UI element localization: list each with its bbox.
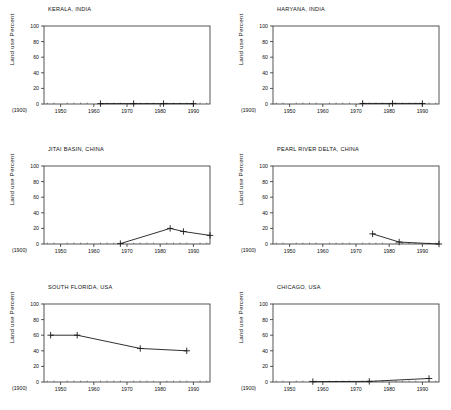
y-tick-label: 100 (259, 163, 268, 169)
x-tick-label: 1980 (383, 386, 395, 392)
x-tick-label: 1950 (55, 108, 67, 114)
data-point-marker (207, 232, 213, 238)
y-tick-label: 40 (262, 70, 268, 76)
y-tick-label: 80 (33, 179, 39, 185)
chart-panel: KERALA, INDIALand use Percent(1900)02040… (0, 0, 222, 140)
y-tick-label: 60 (262, 332, 268, 338)
y-tick-label: 40 (262, 210, 268, 216)
y-tick-label: 60 (33, 194, 39, 200)
x-tick-label: 1960 (317, 248, 329, 254)
y-tick-label: 80 (262, 179, 268, 185)
x-tick-label: 1970 (350, 248, 362, 254)
plot-area: 02040608010019501960197019801990 (0, 0, 222, 140)
plot-area: 02040608010019501960197019801990 (229, 140, 451, 280)
y-tick-label: 20 (262, 363, 268, 369)
data-point-marker (167, 225, 173, 231)
y-tick-label: 100 (30, 23, 39, 29)
y-tick-label: 20 (33, 225, 39, 231)
plot-area: 02040608010019501960197019801990 (229, 278, 451, 410)
x-tick-label: 1980 (154, 248, 166, 254)
data-point-marker (436, 241, 442, 247)
y-tick-label: 60 (33, 54, 39, 60)
y-tick-label: 80 (33, 39, 39, 45)
x-tick-label: 1990 (188, 108, 200, 114)
x-tick-label: 1970 (121, 108, 133, 114)
chart-panel: JITAI BASIN, CHINALand use Percent(1900)… (0, 140, 222, 280)
plot-frame (273, 304, 439, 382)
y-tick-label: 0 (36, 241, 39, 247)
x-tick-label: 1990 (417, 108, 429, 114)
plot-frame (44, 304, 210, 382)
y-tick-label: 100 (30, 301, 39, 307)
plot-frame (273, 166, 439, 244)
y-tick-label: 60 (33, 332, 39, 338)
x-tick-label: 1980 (383, 248, 395, 254)
data-point-marker (47, 332, 53, 338)
x-tick-label: 1990 (188, 386, 200, 392)
x-tick-label: 1960 (88, 248, 100, 254)
data-point-marker (426, 375, 432, 381)
x-tick-label: 1970 (350, 386, 362, 392)
x-tick-label: 1950 (284, 108, 296, 114)
data-line (373, 234, 439, 244)
x-tick-label: 1980 (383, 108, 395, 114)
chart-panel: CHICAGO, USALand use Percent(1900)020406… (229, 278, 451, 410)
y-tick-label: 0 (36, 379, 39, 385)
data-point-marker (97, 100, 103, 106)
plot-area: 02040608010019501960197019801990 (0, 278, 222, 410)
y-tick-label: 0 (265, 379, 268, 385)
y-tick-label: 40 (33, 210, 39, 216)
x-tick-label: 1960 (317, 386, 329, 392)
chart-panel: SOUTH FLORIDA, USALand use Percent(1900)… (0, 278, 222, 410)
data-point-marker (190, 100, 196, 106)
data-point-marker (74, 332, 80, 338)
y-tick-label: 60 (262, 54, 268, 60)
plot-area: 02040608010019501960197019801990 (229, 0, 451, 140)
x-tick-label: 1950 (284, 386, 296, 392)
small-multiples-figure: KERALA, INDIALand use Percent(1900)02040… (0, 0, 451, 410)
y-tick-label: 0 (265, 101, 268, 107)
y-tick-label: 80 (262, 317, 268, 323)
x-tick-label: 1970 (121, 248, 133, 254)
plot-area: 02040608010019501960197019801990 (0, 140, 222, 280)
y-tick-label: 60 (262, 194, 268, 200)
x-tick-label: 1950 (284, 248, 296, 254)
y-tick-label: 80 (33, 317, 39, 323)
data-point-marker (180, 228, 186, 234)
y-tick-label: 20 (262, 85, 268, 91)
chart-panel: PEARL RIVER DELTA, CHINALand use Percent… (229, 140, 451, 280)
data-point-marker (117, 240, 123, 246)
data-point-marker (130, 100, 136, 106)
y-tick-label: 40 (262, 348, 268, 354)
x-tick-label: 1970 (121, 386, 133, 392)
y-tick-label: 40 (33, 348, 39, 354)
x-tick-label: 1960 (317, 108, 329, 114)
y-tick-label: 100 (30, 163, 39, 169)
x-tick-label: 1960 (88, 386, 100, 392)
data-line (51, 335, 187, 351)
y-tick-label: 20 (33, 85, 39, 91)
x-tick-label: 1980 (154, 108, 166, 114)
x-tick-label: 1990 (188, 248, 200, 254)
data-point-marker (310, 378, 316, 384)
plot-frame (44, 166, 210, 244)
y-tick-label: 100 (259, 23, 268, 29)
y-tick-label: 100 (259, 301, 268, 307)
y-tick-label: 20 (262, 225, 268, 231)
data-point-marker (419, 100, 425, 106)
y-tick-label: 0 (265, 241, 268, 247)
plot-frame (273, 26, 439, 104)
data-point-marker (160, 100, 166, 106)
x-tick-label: 1950 (55, 386, 67, 392)
y-tick-label: 80 (262, 39, 268, 45)
x-tick-label: 1990 (417, 248, 429, 254)
y-tick-label: 0 (36, 101, 39, 107)
data-point-marker (369, 231, 375, 237)
data-point-marker (359, 100, 365, 106)
x-tick-label: 1980 (154, 386, 166, 392)
data-point-marker (389, 100, 395, 106)
data-point-marker (366, 378, 372, 384)
data-point-marker (137, 345, 143, 351)
data-point-marker (184, 348, 190, 354)
x-tick-label: 1950 (55, 248, 67, 254)
